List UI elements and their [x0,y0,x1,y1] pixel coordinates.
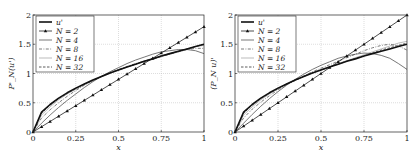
y-tick-label: 1 [228,70,233,79]
data-point-marker [319,72,322,75]
x-axis-label: x [116,143,121,152]
legend: u'N = 2N = 4N = 8N = 16N = 32 [36,16,94,72]
legend-label: N = 2 [55,27,79,36]
x-tick-label: 0.5 [112,134,125,143]
x-tick-label: 0.25 [67,134,85,143]
x-tick-label: 0 [232,134,237,143]
chart-panel-1: 00.250.50.75100.511.52xP'_N(u')u'N = 2N … [7,11,207,152]
data-point-marker [302,83,305,86]
data-point-marker [354,48,357,51]
y-tick-label: 1 [26,70,31,79]
legend-label: N = 8 [257,45,281,54]
figure: 00.250.50.75100.511.52xP'_N(u')u'N = 2N … [0,0,419,154]
data-point-marker [388,25,391,28]
legend: u'N = 2N = 4N = 8N = 16N = 32 [238,16,296,72]
legend-label: N = 16 [257,54,285,63]
data-point-marker [251,119,254,122]
legend-label: N = 2 [257,27,281,36]
y-tick-label: 0 [26,128,31,137]
legend-label: u' [258,18,265,27]
y-tick-label: 0 [228,128,233,137]
data-point-marker [276,101,279,104]
data-point-marker [337,60,340,63]
x-tick-label: 0.5 [315,134,328,143]
x-axis-label: x [319,143,324,152]
x-tick-label: 1 [404,134,409,143]
legend-label: u' [56,18,63,27]
y-tick-label: 2 [26,11,31,20]
legend-label: N = 4 [257,36,281,45]
legend-label: N = 16 [55,54,83,63]
y-tick-label: 1.5 [18,40,31,49]
data-point-marker [362,42,365,45]
y-axis-label: P'_N(u') [7,57,16,90]
x-tick-label: 1 [201,134,206,143]
data-point-marker [268,107,271,110]
x-tick-label: 0.75 [355,134,373,143]
x-tick-label: 0.25 [269,134,287,143]
y-tick-label: 2 [228,11,233,20]
y-tick-label: 0.5 [18,99,31,108]
data-point-marker [380,31,383,34]
legend-label: N = 8 [55,45,79,54]
legend-label: N = 4 [55,36,79,45]
data-point-marker [371,37,374,40]
x-tick-label: 0.75 [152,134,170,143]
data-point-marker [294,89,297,92]
data-point-marker [259,113,262,116]
data-point-marker [311,78,314,81]
legend-label: N = 32 [55,63,83,72]
y-tick-label: 0.5 [220,99,233,108]
legend-label: N = 32 [257,63,285,72]
y-tick-label: 1.5 [220,40,233,49]
data-point-marker [285,95,288,98]
data-point-marker [397,19,400,22]
x-tick-label: 0 [30,134,35,143]
y-axis-label: (P_N u)' [209,57,218,90]
chart-panel-2: 00.250.50.75100.511.52x(P_N u)'u'N = 2N … [209,11,410,152]
